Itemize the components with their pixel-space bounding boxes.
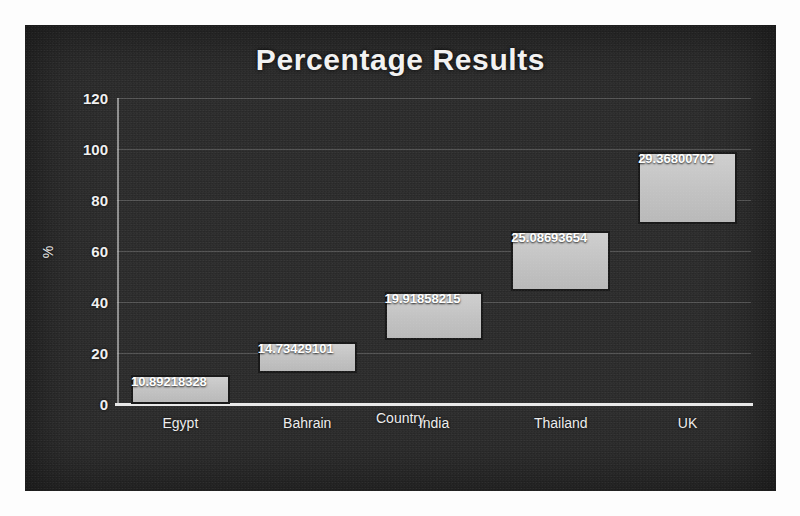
bar-india[interactable]: 19.91858215	[385, 292, 484, 340]
y-axis-tick-label: 100	[83, 141, 108, 158]
screenshot-root: Percentage Results % Country 02040608010…	[0, 0, 800, 516]
bar-data-label: 25.08693654	[511, 230, 587, 245]
gridline	[117, 98, 751, 99]
bar-egypt[interactable]: 10.89218328	[131, 375, 230, 404]
chart-image: Percentage Results % Country 02040608010…	[25, 25, 776, 491]
bar-data-label: 19.91858215	[385, 291, 461, 306]
bar-uk[interactable]: 29.36800702	[638, 152, 737, 224]
plot-area: 020406080100120 EgyptBahrainIndiaThailan…	[117, 98, 751, 404]
y-axis-tick-label: 80	[91, 192, 108, 209]
bar-data-label: 10.89218328	[131, 374, 207, 389]
y-axis-tick-label: 120	[83, 90, 108, 107]
x-axis-tick-label: Bahrain	[283, 415, 331, 431]
x-axis-tick-label: India	[419, 415, 449, 431]
x-axis-tick-label: UK	[678, 415, 697, 431]
x-axis-tick-label: Thailand	[534, 415, 588, 431]
x-axis-title: Country	[25, 410, 776, 426]
bar-thailand[interactable]: 25.08693654	[511, 231, 610, 291]
bar-data-label: 29.36800702	[638, 151, 714, 166]
x-axis-tick-label: Egypt	[162, 415, 198, 431]
y-axis-tick-label: 0	[100, 396, 108, 413]
y-axis-tick-label: 40	[91, 294, 108, 311]
y-axis-title: %	[40, 246, 56, 258]
gridline	[117, 353, 751, 354]
chart-title: Percentage Results	[25, 43, 776, 77]
gridline	[117, 149, 751, 150]
bar-data-label: 14.73429101	[258, 341, 334, 356]
gridline	[117, 251, 751, 252]
y-axis-tick-label: 60	[91, 243, 108, 260]
bar-bahrain[interactable]: 14.73429101	[258, 342, 357, 373]
y-axis-tick-label: 20	[91, 345, 108, 362]
